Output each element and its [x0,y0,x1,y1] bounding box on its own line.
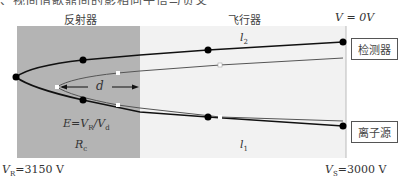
flight-tube-label: 飞行器 [228,11,261,27]
drift-lower-marker [218,115,222,119]
source-potential: VS=3000 V [325,163,386,178]
drift-inner-marker [218,63,222,67]
vs-value: =3000 V [338,163,387,176]
l2-sub: 2 [244,38,248,46]
field-formula: E=VR/Vd [63,117,110,132]
detector-dot [340,39,347,46]
vs-var: V [325,163,333,176]
reflector-sublabel: Rc [75,138,87,153]
path-label-l2: l2 [240,31,248,46]
l1-sub: 1 [244,145,248,153]
inner-apex-marker [55,85,59,89]
vr-value: =3150 V [15,163,64,176]
path-label-l1: l1 [240,138,248,153]
reflector-potential: VR=3150 V [2,163,64,178]
rc-sub: c [83,145,87,153]
reflectron-tof-diagram: 、视间借歌鼎间的影相向子倍与负叉 反射器 飞行器 V = 0V [0,0,410,183]
drift-upper-dot [205,47,212,54]
formula-mid: /V [93,117,105,130]
reflector-label: 反射器 [64,11,97,27]
detector-box: 检测器 [351,38,398,60]
reflector-inner-lower-marker [116,103,120,107]
formula-e: E=V [63,117,88,130]
source-dot [340,123,347,130]
formula-sub-d: d [105,124,109,132]
zero-potential-label: V = 0V [335,11,374,24]
reflector-upper-dot [80,57,87,64]
reflector-lower-dot [80,97,87,104]
vr-var: V [2,163,10,176]
ion-source-box: 离子源 [351,121,398,143]
apex-dot [13,74,20,81]
distance-label: d [96,79,104,93]
diagram-graphics [0,0,410,183]
drift-lower-dot [205,114,212,121]
reflector-inner-upper-marker [116,71,120,75]
